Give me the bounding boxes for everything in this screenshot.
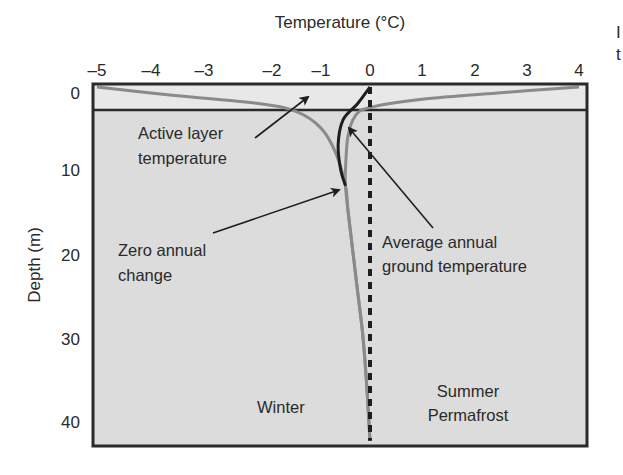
annotation-active-layer-1: Active layer: [138, 124, 224, 142]
annotation-zero-annual-2: change: [118, 266, 172, 284]
cropped-text-2: t: [616, 45, 621, 64]
x-tick-label: 3: [522, 61, 531, 80]
x-tick-label: 1: [417, 61, 426, 80]
label-permafrost: Permafrost: [428, 406, 509, 424]
y-tick-label: 20: [61, 246, 80, 265]
y-tick-labels: 010203040: [61, 84, 80, 432]
annotation-average-annual-2: ground temperature: [382, 257, 527, 275]
y-tick-label: 10: [61, 161, 80, 180]
y-tick-label: 0: [71, 84, 80, 103]
y-axis-title: Depth (m): [25, 227, 44, 303]
annotation-average-annual-1: Average annual: [382, 233, 497, 251]
active-layer-band: [93, 84, 587, 110]
x-tick-labels: –5–4–3–2–101234: [88, 61, 584, 80]
x-tick-label: 4: [574, 61, 583, 80]
label-winter: Winter: [257, 398, 305, 416]
x-axis-title: Temperature (°C): [275, 13, 406, 32]
annotation-zero-annual-1: Zero annual: [118, 241, 206, 259]
cropped-text-1: I: [616, 23, 621, 42]
x-tick-label: 0: [365, 61, 374, 80]
x-tick-label: –3: [195, 61, 214, 80]
x-tick-label: –4: [142, 61, 161, 80]
permafrost-temperature-chart: Temperature (°C) –5–4–3–2–101234 0102030…: [0, 0, 623, 475]
label-summer: Summer: [437, 382, 500, 400]
y-tick-label: 40: [61, 413, 80, 432]
y-tick-label: 30: [61, 330, 80, 349]
x-tick-label: –1: [312, 61, 331, 80]
x-tick-label: –5: [88, 61, 107, 80]
annotation-active-layer-2: temperature: [138, 149, 227, 167]
x-tick-label: –2: [263, 61, 282, 80]
x-tick-label: 2: [470, 61, 479, 80]
